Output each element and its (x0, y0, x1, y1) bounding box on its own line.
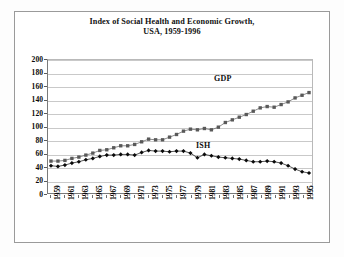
x-axis-tick-mark (141, 195, 142, 198)
x-axis-tick-mark (148, 195, 149, 198)
x-axis-tick-mark (282, 195, 283, 198)
x-axis-tick-mark (289, 195, 290, 198)
x-axis-tick-mark (155, 195, 156, 198)
page-caption-cropped (14, 247, 330, 254)
x-axis-tick-mark (254, 195, 255, 198)
series-label-gdp: GDP (214, 74, 232, 83)
x-axis-tick-mark (310, 195, 311, 198)
x-axis-tick-mark (233, 195, 234, 198)
x-axis-tick-mark (120, 195, 121, 198)
x-axis-tick-mark (50, 195, 51, 198)
x-axis-tick-mark (184, 195, 185, 198)
x-axis-tick-mark (176, 195, 177, 198)
x-axis-tick-mark (64, 195, 65, 198)
x-axis-tick-mark (240, 195, 241, 198)
x-axis-tick-mark (275, 195, 276, 198)
x-axis-tick-mark (113, 195, 114, 198)
x-axis-tick-mark (127, 195, 128, 198)
x-axis-tick-mark (226, 195, 227, 198)
x-axis-tick-mark (162, 195, 163, 198)
x-axis-tick-mark (57, 195, 58, 198)
x-axis-tick-mark (92, 195, 93, 198)
page-background: Index of Social Health and Economic Grow… (0, 0, 344, 257)
x-axis-tick-mark (219, 195, 220, 198)
x-axis-tick-mark (169, 195, 170, 198)
x-axis-tick-mark (78, 195, 79, 198)
x-axis-tick-mark (106, 195, 107, 198)
x-axis-tick-mark (296, 195, 297, 198)
x-axis-tick-mark (247, 195, 248, 198)
x-axis-tick-mark (261, 195, 262, 198)
x-axis-tick-mark (303, 195, 304, 198)
x-axis-tick-mark (71, 195, 72, 198)
x-axis-tick-mark (85, 195, 86, 198)
x-axis-tick-mark (134, 195, 135, 198)
x-axis: 1959196119631965196719691971197319751977… (0, 0, 344, 257)
x-axis-tick-mark (205, 195, 206, 198)
x-axis-tick-mark (268, 195, 269, 198)
series-label-ish: ISH (196, 141, 210, 150)
x-axis-tick-mark (99, 195, 100, 198)
x-axis-tick-mark (198, 195, 199, 198)
x-axis-tick-mark (191, 195, 192, 198)
x-axis-tick-mark (212, 195, 213, 198)
